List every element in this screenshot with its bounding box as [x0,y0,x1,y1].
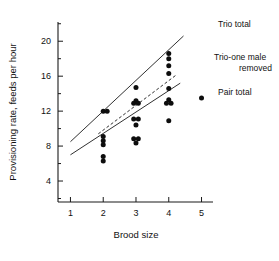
data-point [136,136,141,141]
x-tick-label: 4 [166,208,171,218]
data-point [199,96,204,101]
data-point [131,136,136,141]
data-point [131,101,136,106]
data-point [169,101,174,106]
data-point [136,101,141,106]
data-point [166,86,171,91]
y-tick-label: 8 [46,141,51,151]
series-label-pair-total: Pair total [218,87,252,97]
y-tick-label: 16 [41,71,51,81]
data-point [164,101,169,106]
data-point [166,51,171,56]
series-label-trio-one-male-line2: removed [239,63,272,73]
x-axis-ticks [70,197,201,202]
x-axis-title: Brood size [114,229,159,240]
y-axis-ticks [58,41,63,181]
data-point [101,158,106,163]
series-label-trio-one-male-line1: Trio-one male [214,52,266,62]
data-point [133,141,138,146]
data-point [101,142,106,147]
data-point [133,123,138,128]
regression-line-pair-total [70,83,180,155]
y-axis-title: Provisioning rate, feeds per hour [7,43,18,180]
data-point [101,154,106,159]
data-point [136,116,141,121]
data-point [166,63,171,68]
x-axis-tick-labels: 12345 [68,208,204,218]
data-point [101,134,106,139]
x-tick-label: 3 [133,208,138,218]
y-axis-tick-labels: 48121620 [41,36,51,186]
series-annotations: Trio total Trio-one male removed Pair to… [214,19,272,97]
y-tick-label: 4 [46,176,51,186]
x-tick-label: 5 [199,208,204,218]
data-point [166,118,171,123]
scatter-plot: 48121620 12345 Provisioning rate, feeds … [0,0,279,261]
data-point [166,56,171,61]
x-tick-label: 2 [101,208,106,218]
data-point [105,109,110,114]
data-point [131,116,136,121]
series-label-trio-total: Trio total [218,19,251,29]
data-point [166,71,171,76]
x-tick-label: 1 [68,208,73,218]
data-point [133,85,138,90]
y-tick-label: 12 [41,106,51,116]
data-points [101,51,204,163]
chart-figure: 48121620 12345 Provisioning rate, feeds … [0,0,279,261]
y-tick-label: 20 [41,36,51,46]
